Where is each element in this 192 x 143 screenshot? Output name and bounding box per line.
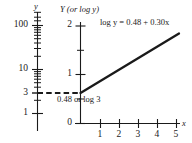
- regression-line: [81, 34, 180, 94]
- x-tick-label-1: 1: [98, 130, 103, 140]
- linear-axes-group: [75, 22, 180, 128]
- y-tick-label-2: 2: [52, 20, 72, 30]
- x-tick-label-5: 5: [174, 130, 179, 140]
- log-tick-label-3: 3: [2, 88, 28, 98]
- intercept-annotation: 0.48 or log 3: [57, 95, 100, 104]
- x-tick-label-3: 3: [136, 130, 141, 140]
- log-axis-title: y: [34, 2, 38, 11]
- log-linear-regression-figure: y 100 10 3 1 Y (or log y) 2 1 0 1 2 3 4 …: [0, 0, 192, 143]
- linear-y-axis-title: Y (or log y): [60, 5, 99, 14]
- regression-equation-annotation: log y = 0.48 + 0.30x: [100, 18, 169, 27]
- log-tick-label-10: 10: [2, 64, 28, 74]
- y-tick-label-1: 1: [52, 69, 72, 79]
- log-axis-group: [32, 12, 43, 131]
- log-tick-label-1: 1: [2, 108, 28, 118]
- y-tick-label-0: 0: [52, 118, 72, 128]
- log-tick-label-100: 100: [2, 20, 28, 30]
- x-tick-label-4: 4: [155, 130, 160, 140]
- x-tick-label-2: 2: [117, 130, 122, 140]
- linear-x-axis-title: x: [182, 119, 186, 128]
